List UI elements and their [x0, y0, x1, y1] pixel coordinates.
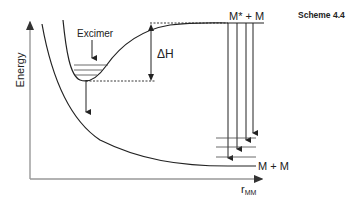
- lower-asymptote-label: M + M: [258, 160, 289, 172]
- x-axis-label: rMM: [241, 183, 257, 196]
- excimer-label: Excimer: [77, 28, 114, 39]
- ground-vibrational-levels: [216, 138, 256, 157]
- upper-asymptote-label: M* + M: [229, 10, 264, 22]
- scheme-label: Scheme 4.4: [298, 10, 345, 20]
- ground-state-curve: [42, 24, 256, 166]
- axes: [30, 22, 262, 179]
- y-axis-label: Energy: [14, 52, 26, 87]
- excimer-potential-diagram: Energy Excimer ΔH M* + M M + M rMM Schem…: [0, 0, 363, 205]
- delta-h-label: ΔH: [157, 47, 174, 61]
